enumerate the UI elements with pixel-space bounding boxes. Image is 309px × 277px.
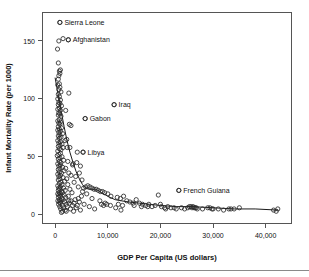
annotation-label: Libya (88, 149, 105, 157)
y-tick-label: 150 (23, 38, 35, 45)
annotation-label: Sierra Leone (64, 19, 104, 26)
annotation-label: Iraq (119, 101, 131, 109)
annotation-label: French Guiana (183, 187, 229, 194)
y-tick-label: 0 (31, 211, 35, 218)
y-tick-label: 100 (23, 95, 35, 102)
x-tick-label: 0 (53, 232, 57, 239)
annotation-label: Gabon (90, 115, 111, 122)
annotation-label: Afghanistan (73, 36, 110, 44)
y-tick-label: 50 (27, 153, 35, 160)
x-tick-label: 40,000 (255, 232, 277, 239)
x-tick-label: 10,000 (97, 232, 119, 239)
x-tick-label: 30,000 (202, 232, 224, 239)
y-axis-title: Infant Mortality Rate (per 1000) (4, 63, 13, 173)
x-axis-title: GDP Per Capita (US dollars) (117, 253, 217, 262)
scatter-plot: Sierra LeoneAfghanistanIraqGabonLibyaFre… (0, 0, 309, 277)
chart-figure: Sierra LeoneAfghanistanIraqGabonLibyaFre… (0, 0, 309, 277)
x-tick-label: 20,000 (150, 232, 172, 239)
